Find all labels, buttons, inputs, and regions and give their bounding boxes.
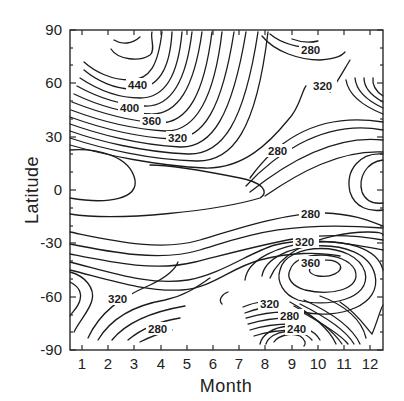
contour-label-320-south: 320 xyxy=(295,236,314,248)
x-tick-label: 10 xyxy=(310,355,327,372)
contour-label-280-north: 280 xyxy=(301,44,320,56)
contour-label-320: 320 xyxy=(168,132,187,144)
contour-label-240-antarctic: 240 xyxy=(287,323,306,335)
y-tick-label: 90 xyxy=(45,21,62,38)
x-tick-label: 7 xyxy=(235,355,243,372)
x-tick-label: 3 xyxy=(130,355,138,372)
x-axis-title: Month xyxy=(200,376,253,396)
y-tick-label: -60 xyxy=(40,288,62,305)
contour-label-320-north: 320 xyxy=(313,80,332,92)
x-tick-label: 1 xyxy=(78,355,86,372)
contour-chart: 440 400 360 320 280 320 280 280 320 360 … xyxy=(0,0,404,401)
x-tick-label: 9 xyxy=(288,355,296,372)
x-tick-label: 8 xyxy=(261,355,269,372)
x-tick-label: 6 xyxy=(209,355,217,372)
contour-label-320-antarctic: 320 xyxy=(260,298,279,310)
contour-label-280-south: 280 xyxy=(301,208,320,220)
contour-label-320-sh-left: 320 xyxy=(108,293,127,305)
y-tick-labels: 90 60 30 0 -30 -60 -90 xyxy=(40,21,62,358)
x-tick-label: 11 xyxy=(336,355,352,372)
x-tick-label: 12 xyxy=(362,355,379,372)
contour-label-400: 400 xyxy=(120,102,139,114)
x-tick-label: 5 xyxy=(183,355,191,372)
contour-label-440: 440 xyxy=(128,79,147,91)
contour-label-360-south: 360 xyxy=(301,257,320,269)
contour-label-280-tropics: 280 xyxy=(268,145,287,157)
y-tick-label: -90 xyxy=(40,341,62,358)
y-tick-label: -30 xyxy=(40,234,62,251)
contour-label-280-antarctic: 280 xyxy=(280,310,299,322)
y-tick-label: 60 xyxy=(45,74,62,91)
contour-label-360: 360 xyxy=(142,115,161,127)
x-tick-label: 4 xyxy=(157,355,165,372)
y-axis-title: Latitude xyxy=(22,156,42,224)
y-tick-label: 30 xyxy=(45,128,62,145)
y-tick-label: 0 xyxy=(54,181,62,198)
contour-label-280-sh-left: 280 xyxy=(148,323,167,335)
x-tick-labels: 1 2 3 4 5 6 7 8 9 10 11 12 xyxy=(78,355,379,372)
x-tick-label: 2 xyxy=(104,355,112,372)
